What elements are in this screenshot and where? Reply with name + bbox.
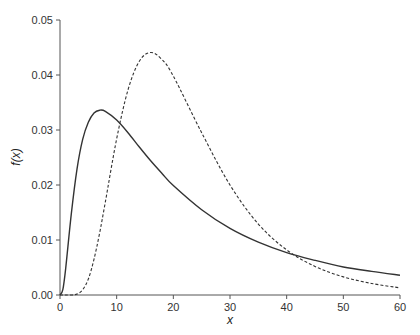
y-tick-label: 0.04 — [32, 69, 53, 81]
y-tick-label: 0.03 — [32, 124, 53, 136]
y-tick-label: 0.05 — [32, 14, 53, 26]
x-tick-label: 30 — [224, 301, 236, 313]
x-tick-label: 0 — [57, 301, 63, 313]
x-ticks: 0102030405060 — [57, 295, 406, 313]
x-tick-label: 10 — [111, 301, 123, 313]
x-tick-label: 60 — [394, 301, 406, 313]
y-tick-label: 0.01 — [32, 234, 53, 246]
chart: 0.000.010.020.030.040.05 0102030405060 x… — [0, 0, 420, 335]
x-tick-label: 40 — [281, 301, 293, 313]
x-axis-title: x — [226, 313, 234, 327]
plot-area — [60, 52, 400, 295]
y-axis-title: f(x) — [9, 148, 23, 165]
x-tick-label: 50 — [337, 301, 349, 313]
y-tick-label: 0.00 — [32, 289, 53, 301]
y-tick-label: 0.02 — [32, 179, 53, 191]
solid-curve — [60, 110, 400, 295]
x-tick-label: 20 — [167, 301, 179, 313]
y-ticks: 0.000.010.020.030.040.05 — [32, 14, 60, 301]
dashed-curve — [60, 52, 400, 295]
